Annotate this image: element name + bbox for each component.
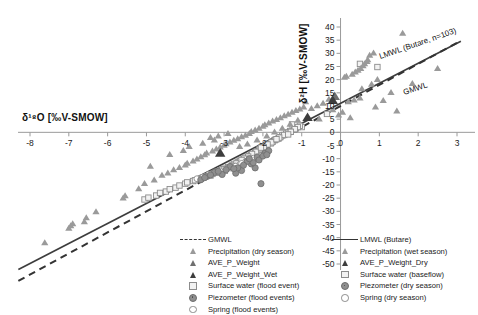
triangle-light-icon bbox=[178, 246, 208, 258]
y-axis-title: δ²H [‰V-SMOW] bbox=[298, 9, 309, 119]
circle-filled-icon bbox=[178, 292, 208, 304]
legend-item-label: Precipitation (wet season) bbox=[360, 246, 447, 258]
legend-item-label: AVE_P_Weight bbox=[208, 257, 260, 269]
legend-item: Surface water (flood event) bbox=[178, 280, 330, 292]
circle-open-icon bbox=[330, 292, 360, 304]
triangle-dark-icon bbox=[178, 269, 208, 281]
legend-item: AVE_P_Weight bbox=[178, 257, 330, 269]
y-tick-label: 30 bbox=[313, 48, 335, 58]
x-tick-label: -6 bbox=[104, 138, 112, 148]
x-tick-label: -8 bbox=[26, 138, 34, 148]
y-tick-label: 15 bbox=[313, 88, 335, 98]
legend-column-right: LMWL (Butare)Precipitation (wet season)A… bbox=[330, 234, 478, 304]
x-tick-label: -7 bbox=[65, 138, 73, 148]
y-tick-label: 35 bbox=[313, 35, 335, 45]
series-surface-water-flood-event bbox=[146, 124, 301, 200]
x-axis-title: δ¹⁸O [‰V-SMOW] bbox=[22, 112, 108, 123]
x-tick-label: 0 bbox=[338, 138, 343, 148]
y-tick-label: -20 bbox=[313, 180, 335, 190]
x-tick-label: 3 bbox=[455, 138, 460, 148]
y-tick-label: 40 bbox=[313, 22, 335, 32]
legend-item: Surface water (baseflow) bbox=[330, 269, 478, 281]
x-tick-label: -3 bbox=[220, 138, 228, 148]
x-tick-label: -4 bbox=[181, 138, 189, 148]
square-open-icon bbox=[330, 269, 360, 281]
circle-filled-icon bbox=[330, 280, 360, 292]
x-tick-label: 1 bbox=[377, 138, 382, 148]
legend-item: AVE_P_Weight_Wet bbox=[178, 269, 330, 281]
legend-item: Precipitation (wet season) bbox=[330, 246, 478, 258]
x-tick-label: -5 bbox=[143, 138, 151, 148]
solid-line-icon bbox=[330, 234, 360, 246]
y-tick-label: -15 bbox=[313, 167, 335, 177]
legend-item-label: Piezometer (flood events) bbox=[208, 292, 295, 304]
y-tick-label: 20 bbox=[313, 75, 335, 85]
x-tick-label: -1 bbox=[298, 138, 306, 148]
y-tick-label: -10 bbox=[313, 154, 335, 164]
legend-item: Precipitation (dry season) bbox=[178, 246, 330, 258]
triangle-light-icon bbox=[330, 246, 360, 258]
y-tick-label: -30 bbox=[313, 206, 335, 216]
legend-item-label: LMWL (Butare) bbox=[360, 234, 411, 246]
legend-item: LMWL (Butare) bbox=[330, 234, 478, 246]
legend-item-label: Spring (flood events) bbox=[208, 304, 278, 315]
legend-item-label: Piezometer (dry season) bbox=[360, 280, 443, 292]
y-tick-label: -35 bbox=[313, 220, 335, 230]
legend-item: Piezometer (flood events) bbox=[178, 292, 330, 304]
circle-open-icon bbox=[178, 304, 208, 315]
legend-item-label: AVE_P_Weight_Dry bbox=[360, 257, 428, 269]
legend-item-label: AVE_P_Weight_Wet bbox=[208, 269, 277, 281]
y-tick-label: -5 bbox=[313, 141, 335, 151]
legend-item-label: Spring (dry season) bbox=[360, 292, 426, 304]
series-precipitation-dry-season bbox=[41, 104, 307, 246]
y-tick-label: 0 bbox=[313, 127, 335, 137]
triangle-mid-icon bbox=[178, 257, 208, 269]
legend-item: Spring (dry season) bbox=[330, 292, 478, 304]
isotope-scatter-figure: δ¹⁸O [‰V-SMOW] δ²H [‰V-SMOW] -8-7-6-5-4-… bbox=[0, 0, 478, 315]
legend-item-label: Surface water (flood event) bbox=[208, 280, 299, 292]
legend-item-label: Surface water (baseflow) bbox=[360, 269, 444, 281]
legend-item: GMWL bbox=[178, 234, 330, 246]
legend-item-label: Precipitation (dry season) bbox=[208, 246, 294, 258]
triangle-dark-icon bbox=[330, 257, 360, 269]
legend-item: AVE_P_Weight_Dry bbox=[330, 257, 478, 269]
dashed-line-icon bbox=[178, 234, 208, 246]
legend-item: Piezometer (dry season) bbox=[330, 280, 478, 292]
legend-item: Spring (flood events) bbox=[178, 304, 330, 315]
legend-column-left: GMWLPrecipitation (dry season)AVE_P_Weig… bbox=[178, 234, 330, 315]
square-open-icon bbox=[178, 280, 208, 292]
y-tick-label: 10 bbox=[313, 101, 335, 111]
y-tick-label: 5 bbox=[313, 114, 335, 124]
chart-legend: GMWLPrecipitation (dry season)AVE_P_Weig… bbox=[178, 234, 478, 314]
x-tick-label: 2 bbox=[416, 138, 421, 148]
x-tick-label: -2 bbox=[259, 138, 267, 148]
y-tick-label: 25 bbox=[313, 62, 335, 72]
legend-item-label: GMWL bbox=[208, 234, 232, 246]
y-tick-label: -25 bbox=[313, 193, 335, 203]
